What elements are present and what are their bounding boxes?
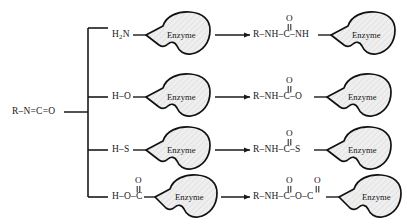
carbonyl-oxygen-label: O xyxy=(286,76,293,85)
enzyme-label: Enzyme xyxy=(352,30,381,40)
reactant-label-hydroxyl: H–O xyxy=(112,92,131,102)
enzyme-label: Enzyme xyxy=(362,192,391,202)
enzyme-label: Enzyme xyxy=(348,145,377,155)
enzyme-label: Enzyme xyxy=(167,145,196,155)
carbonyl-oxygen-label: O xyxy=(286,176,293,185)
enzyme-label: Enzyme xyxy=(175,192,204,202)
reactant-carbonyl-oxygen-label: O xyxy=(135,176,142,185)
isocyanate-substrate-label: R–N=C=O xyxy=(12,107,55,117)
reaction-diagram: R–N=C=O H2N Enzyme R–NH–C–NH O Enzyme H–… xyxy=(0,0,407,224)
carbonyl-oxygen-label: O xyxy=(286,14,293,23)
product-label-thiocarbamate: R–NH–C–S xyxy=(253,145,301,155)
diagram-linework xyxy=(0,0,407,224)
branch-bracket xyxy=(88,28,108,197)
enzyme-label: Enzyme xyxy=(348,92,377,102)
product-label-anhydride: R–NH–C–O–C xyxy=(253,192,314,202)
reactant-label-thiol: H–S xyxy=(112,145,130,155)
enzyme-label: Enzyme xyxy=(167,30,196,40)
carbonyl-double-bond xyxy=(316,186,319,193)
carbonyl-oxygen-label: O xyxy=(286,129,293,138)
reactant-label-amine: H2N xyxy=(112,30,130,41)
carbonyl-oxygen-label: O xyxy=(314,176,321,185)
product-label-carbamate: R–NH–C–O xyxy=(253,92,302,102)
enzyme-label: Enzyme xyxy=(167,92,196,102)
reactant-label-carboxyl: H–O–C xyxy=(112,192,143,202)
product-label-urea: R–NH–C–NH xyxy=(253,30,309,40)
